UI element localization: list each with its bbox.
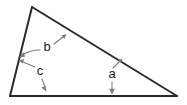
- triangle-diagram-canvas: a b c: [0, 0, 187, 105]
- angle-label-b: b: [43, 39, 50, 54]
- angle-label-a: a: [108, 66, 116, 81]
- angle-label-c: c: [37, 63, 44, 78]
- geometry-figure: a b c: [0, 0, 187, 105]
- triangle-interior: [10, 7, 177, 96]
